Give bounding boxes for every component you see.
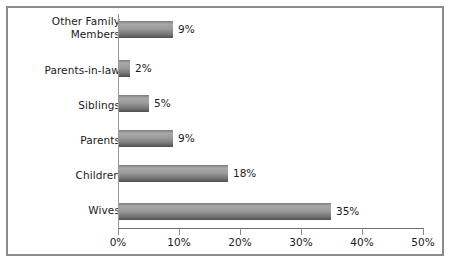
- bar-parents: [118, 130, 173, 147]
- x-axis-label-30: 30%: [279, 236, 323, 248]
- bar-value-wives: 35%: [336, 203, 359, 220]
- x-axis-tick-50: [423, 228, 424, 235]
- bar-wives: [118, 203, 331, 220]
- bar-value-other-family-members: 9%: [178, 21, 195, 38]
- x-axis-tick-0: [118, 228, 119, 235]
- category-label-parents-in-law: Parents-in-law: [25, 64, 120, 77]
- x-axis-label-20: 20%: [218, 236, 262, 248]
- x-axis-tick-10: [179, 228, 180, 235]
- y-axis-line: [118, 14, 119, 228]
- category-label-children: Children: [25, 169, 120, 182]
- bar-value-parents: 9%: [178, 130, 195, 147]
- x-axis-tick-30: [301, 228, 302, 235]
- x-axis-label-40: 40%: [340, 236, 384, 248]
- category-label-line1: Other Family: [25, 15, 120, 28]
- category-label-wives: Wives: [25, 204, 120, 217]
- x-axis-tick-20: [240, 228, 241, 235]
- category-label-parents: Parents: [25, 134, 120, 147]
- bar-chart: Other Family Members Parents-in-law Sibl…: [0, 0, 452, 264]
- category-label-siblings: Siblings: [25, 99, 120, 112]
- category-label-other-family-members: Other Family Members: [25, 15, 120, 40]
- x-axis-label-50: 50%: [401, 236, 445, 248]
- x-axis-line: [118, 228, 423, 229]
- x-axis-label-10: 10%: [157, 236, 201, 248]
- x-axis-label-0: 0%: [96, 236, 140, 248]
- category-label-line2: Members: [25, 28, 120, 41]
- bar-parents-in-law: [118, 60, 130, 77]
- bar-value-children: 18%: [233, 165, 256, 182]
- x-axis-tick-40: [362, 228, 363, 235]
- bar-value-siblings: 5%: [154, 95, 171, 112]
- bar-siblings: [118, 95, 149, 112]
- bar-value-parents-in-law: 2%: [135, 60, 152, 77]
- bar-children: [118, 165, 228, 182]
- bar-other-family-members: [118, 21, 173, 38]
